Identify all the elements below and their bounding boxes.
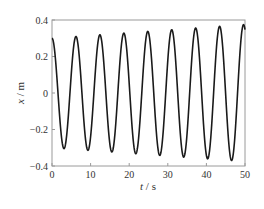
y-tick-label: 0.2 xyxy=(36,51,49,62)
x-axis-label: t / s xyxy=(140,180,156,192)
y-tick-label: −0.4 xyxy=(30,161,48,172)
x-tick-label: 20 xyxy=(124,169,134,180)
data-series-line xyxy=(52,25,245,161)
y-tick-label: 0 xyxy=(43,88,48,99)
y-tick-label: −0.2 xyxy=(30,124,48,135)
y-tick-label: 0.4 xyxy=(36,15,49,26)
x-tick-label: 50 xyxy=(240,169,250,180)
plot-frame xyxy=(52,20,245,166)
x-tick-label: 30 xyxy=(163,169,173,180)
y-axis-ticks: 0.40.20−0.2−0.4 xyxy=(30,15,55,172)
x-tick-label: 0 xyxy=(50,169,55,180)
y-axis-label: x / m xyxy=(14,82,26,105)
chart: 01020304050 0.40.20−0.2−0.4 t / s x / m xyxy=(0,0,264,209)
x-tick-label: 10 xyxy=(86,169,96,180)
x-tick-label: 40 xyxy=(201,169,211,180)
